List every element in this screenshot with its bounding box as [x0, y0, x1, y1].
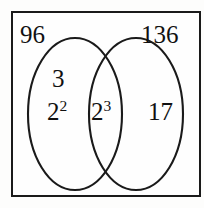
right-region-factor-1: 17	[148, 99, 173, 124]
left-region-factor-1-base: 3	[52, 65, 65, 92]
left-region-factor-2-exponent: 2	[60, 97, 68, 114]
venn-diagram-figure: 96 136 3 22 23 17	[0, 0, 204, 208]
set-label-left: 96	[20, 22, 45, 47]
right-region-factor-1-base: 17	[148, 98, 173, 125]
set-label-right: 136	[141, 22, 179, 47]
left-region-factor-2: 22	[47, 99, 67, 124]
left-region-factor-1: 3	[52, 66, 65, 91]
intersection-region-factor-base: 2	[91, 98, 104, 125]
intersection-region-factor-exponent: 3	[104, 97, 112, 114]
left-region-factor-2-base: 2	[47, 98, 60, 125]
intersection-region-factor: 23	[91, 99, 111, 124]
